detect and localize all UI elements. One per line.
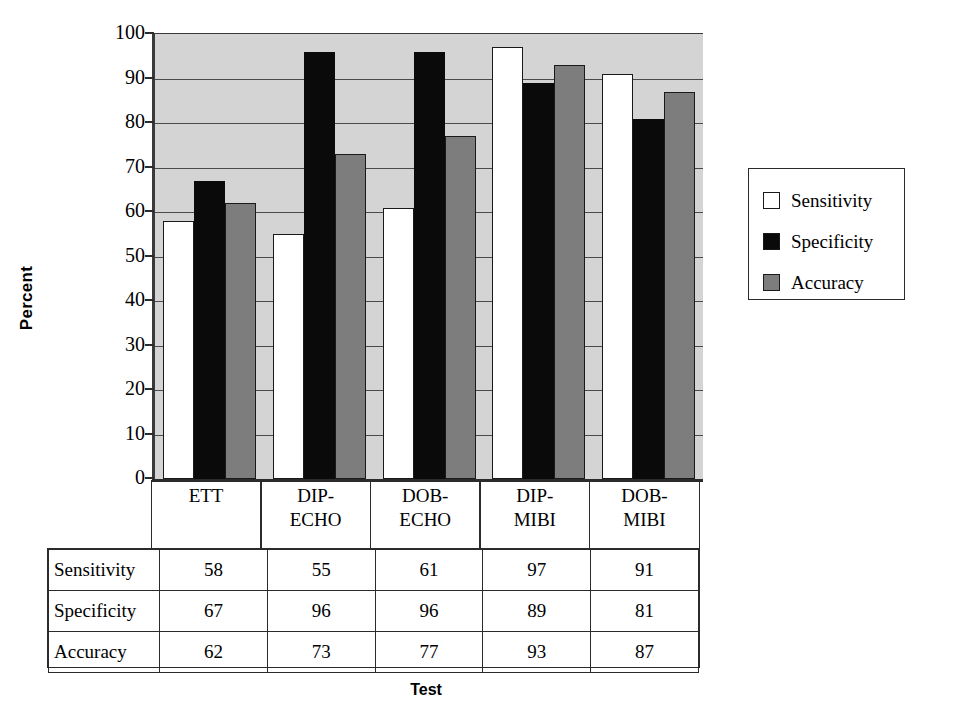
category-cell-dob-echo: DOB-ECHO: [370, 480, 481, 548]
table-cell: 77: [375, 632, 483, 673]
y-tick-label: 90: [97, 67, 145, 87]
legend-swatch-accuracy: [763, 274, 780, 291]
x-axis-title: Test: [152, 681, 700, 699]
table-row-header: Accuracy: [49, 632, 160, 673]
y-tick-mark: [145, 32, 154, 34]
bar-sensitivity-dob-echo: [383, 208, 414, 479]
bar-accuracy-dip-echo: [335, 154, 366, 479]
table-cell: 89: [483, 591, 591, 632]
plot-area: [152, 33, 703, 479]
bar-accuracy-ett: [225, 203, 256, 479]
category-label-line2: MIBI: [514, 509, 556, 531]
bar-accuracy-dip-mibi: [554, 65, 585, 479]
category-label-line1: ETT: [189, 485, 224, 507]
table-cell: 87: [591, 632, 699, 673]
category-label-line1: DOB-: [402, 485, 448, 507]
category-cell-dob-mibi: DOB-MIBI: [589, 480, 700, 548]
table-cell: 73: [267, 632, 375, 673]
y-tick-label: 30: [97, 334, 145, 354]
y-tick-mark: [145, 299, 154, 301]
bar-specificity-dob-echo: [414, 52, 445, 479]
category-label-line2: ECHO: [399, 509, 451, 531]
table-row: Accuracy6273779387: [49, 632, 699, 673]
y-tick-label: 20: [97, 378, 145, 398]
category-cell-dip-echo: DIP-ECHO: [260, 480, 371, 548]
y-tick-label: 60: [97, 200, 145, 220]
y-tick-mark: [145, 166, 154, 168]
y-axis-title: Percent: [17, 238, 37, 358]
category-label-line1: DIP-: [516, 485, 553, 507]
table-cell: 93: [483, 632, 591, 673]
y-tick-label: 10: [97, 423, 145, 443]
y-tick-label: 50: [97, 245, 145, 265]
y-tick-mark: [145, 388, 154, 390]
bar-sensitivity-dip-mibi: [492, 47, 523, 479]
bar-accuracy-dob-echo: [445, 136, 476, 479]
y-tick-mark: [145, 344, 154, 346]
y-tick-mark: [145, 210, 154, 212]
table-cell: 81: [591, 591, 699, 632]
legend-swatch-specificity: [763, 233, 780, 250]
table-row: Sensitivity5855619791: [49, 550, 699, 591]
y-tick-mark: [145, 77, 154, 79]
category-cell-ett: ETT: [151, 480, 262, 548]
bar-accuracy-dob-mibi: [664, 92, 695, 479]
table-row: Specificity6796968981: [49, 591, 699, 632]
legend-item: Accuracy: [763, 262, 904, 303]
y-tick-mark: [145, 477, 154, 479]
bar-specificity-dip-mibi: [523, 83, 554, 479]
table-cell: 62: [160, 632, 268, 673]
legend-swatch-sensitivity: [763, 192, 780, 209]
table-row-header: Sensitivity: [49, 550, 160, 591]
y-tick-label: 70: [97, 156, 145, 176]
data-table: Sensitivity5855619791Specificity67969689…: [47, 548, 700, 668]
table-cell: 96: [375, 591, 483, 632]
y-tick-mark: [145, 433, 154, 435]
bar-specificity-ett: [194, 181, 225, 479]
bar-sensitivity-dob-mibi: [602, 74, 633, 479]
table-cell: 61: [375, 550, 483, 591]
category-cell-dip-mibi: DIP-MIBI: [479, 480, 590, 548]
legend: Sensitivity Specificity Accuracy: [748, 168, 905, 300]
legend-item: Sensitivity: [763, 180, 904, 221]
bar-specificity-dob-mibi: [633, 119, 664, 479]
y-tick-label: 100: [97, 22, 145, 42]
table-cell: 55: [267, 550, 375, 591]
bar-sensitivity-ett: [163, 221, 194, 479]
bar-sensitivity-dip-echo: [273, 234, 304, 479]
table-cell: 97: [483, 550, 591, 591]
y-tick-label: 0: [97, 467, 145, 487]
bar-specificity-dip-echo: [304, 52, 335, 479]
legend-label-accuracy: Accuracy: [791, 273, 864, 292]
table-cell: 67: [160, 591, 268, 632]
y-tick-label: 40: [97, 289, 145, 309]
y-tick-label: 80: [97, 111, 145, 131]
category-label-line1: DOB-: [621, 485, 667, 507]
legend-label-sensitivity: Sensitivity: [791, 191, 872, 210]
table-cell: 96: [267, 591, 375, 632]
y-tick-mark: [145, 121, 154, 123]
legend-label-specificity: Specificity: [791, 232, 873, 251]
category-label-line2: MIBI: [623, 509, 665, 531]
table-cell: 58: [160, 550, 268, 591]
category-label-line2: ECHO: [290, 509, 342, 531]
table-row-header: Specificity: [49, 591, 160, 632]
category-label-line1: DIP-: [297, 485, 334, 507]
chart-figure: Percent 1009080706050403020100 Sensitivi…: [0, 0, 956, 723]
legend-item: Specificity: [763, 221, 904, 262]
category-header-row: ETTDIP-ECHODOB-ECHODIP-MIBIDOB-MIBI: [152, 480, 700, 548]
y-tick-mark: [145, 255, 154, 257]
table-cell: 91: [591, 550, 699, 591]
